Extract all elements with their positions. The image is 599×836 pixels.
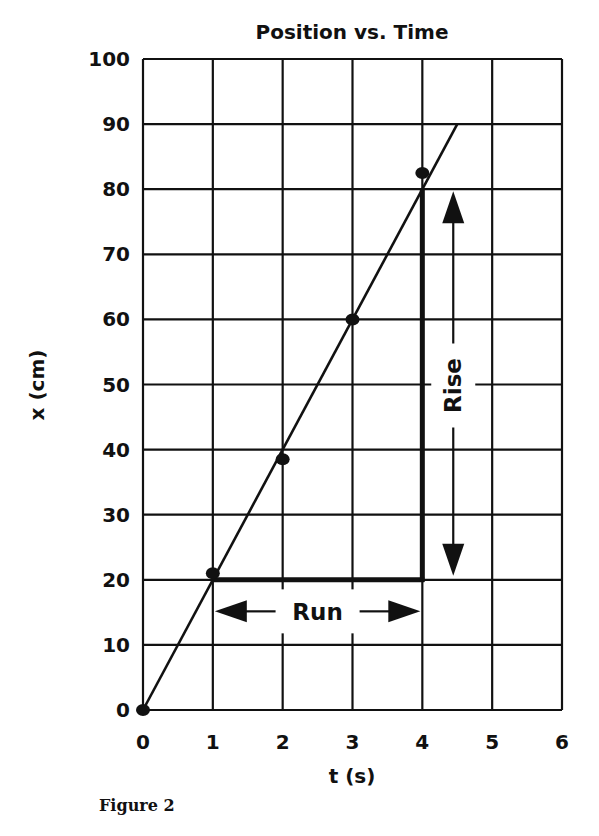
x-tick-label: 6 (555, 730, 569, 754)
y-axis-ticks: 0102030405060708090100 (88, 47, 130, 722)
x-tick-label: 0 (136, 730, 150, 754)
y-tick-label: 60 (102, 307, 130, 331)
x-tick-label: 5 (485, 730, 499, 754)
data-point (206, 567, 220, 579)
chart-title: Position vs. Time (256, 20, 449, 44)
data-point (346, 313, 360, 325)
x-tick-label: 1 (206, 730, 220, 754)
y-tick-label: 80 (102, 177, 130, 201)
position-time-chart: Position vs. Time 0102030405060708090100… (0, 0, 599, 836)
y-tick-label: 30 (102, 503, 130, 527)
y-tick-label: 40 (102, 438, 130, 462)
x-tick-label: 2 (276, 730, 290, 754)
data-point (136, 704, 150, 716)
y-tick-label: 100 (88, 47, 130, 71)
y-axis-label: x (cm) (25, 350, 49, 421)
x-tick-label: 4 (415, 730, 429, 754)
arrowhead-up-icon (442, 191, 464, 223)
y-tick-label: 70 (102, 242, 130, 266)
x-axis-label: t (s) (329, 764, 376, 788)
figure-caption: Figure 2 (99, 796, 175, 815)
y-tick-label: 50 (102, 373, 130, 397)
arrowhead-left-icon (215, 600, 247, 622)
arrowhead-right-icon (388, 600, 420, 622)
data-point (276, 453, 290, 465)
y-tick-label: 20 (102, 568, 130, 592)
arrowhead-down-icon (442, 544, 464, 576)
data-point (415, 167, 429, 179)
run-label: Run (292, 599, 342, 625)
x-axis-ticks: 0123456 (136, 730, 569, 754)
x-tick-label: 3 (346, 730, 360, 754)
y-tick-label: 0 (116, 698, 130, 722)
rise-label: Rise (440, 358, 466, 413)
y-tick-label: 10 (102, 633, 130, 657)
y-tick-label: 90 (102, 112, 130, 136)
